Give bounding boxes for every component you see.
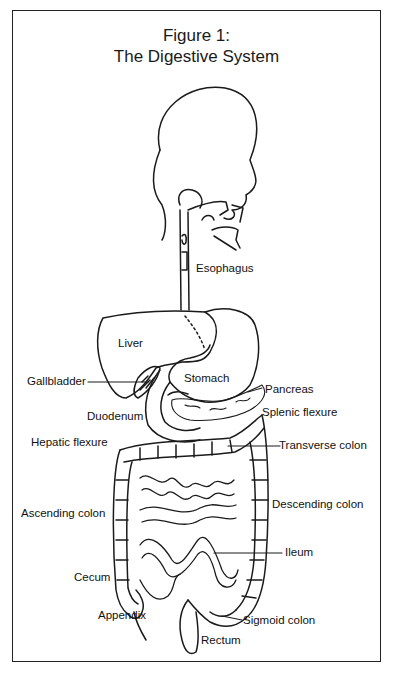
label-cecum: Cecum <box>74 571 110 583</box>
label-duodenum: Duodenum <box>87 410 143 422</box>
small-intestine <box>140 476 238 599</box>
label-gallbladder: Gallbladder <box>27 375 86 387</box>
pancreas-shape <box>172 385 265 421</box>
label-splenic-flexure: Splenic flexure <box>262 406 337 418</box>
digestive-system-illustration <box>0 0 393 678</box>
liver-shape <box>98 311 217 398</box>
ascending-colon <box>113 450 138 614</box>
stomach-shape <box>169 309 259 402</box>
label-liver: Liver <box>118 337 143 349</box>
label-descending-colon: Descending colon <box>272 498 363 510</box>
esophagus-tube <box>180 210 189 310</box>
label-pancreas: Pancreas <box>265 383 314 395</box>
label-ileum: Ileum <box>285 546 313 558</box>
transverse-colon <box>120 415 264 462</box>
label-appendix: Appendix <box>98 609 146 621</box>
label-esophagus: Esophagus <box>196 262 254 274</box>
label-hepatic-flexure: Hepatic flexure <box>31 436 108 448</box>
head-outline <box>154 87 257 250</box>
label-rectum: Rectum <box>201 634 241 646</box>
label-stomach: Stomach <box>184 372 229 384</box>
label-sigmoid-colon: Sigmoid colon <box>243 614 315 626</box>
label-transverse-colon: Transverse colon <box>279 439 367 451</box>
label-ascending-colon: Ascending colon <box>21 507 105 519</box>
